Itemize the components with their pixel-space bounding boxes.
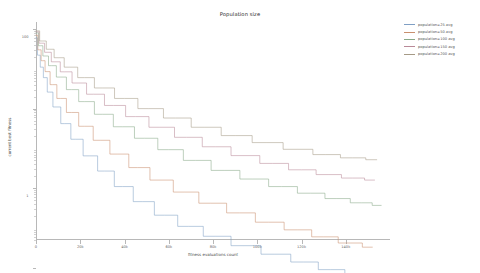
series-line-0: [36, 38, 379, 273]
legend-color-swatch: [404, 39, 415, 40]
legend-item[interactable]: population=150 avg: [404, 43, 478, 50]
legend-item[interactable]: population=200 avg: [404, 51, 478, 58]
legend-item-label: population=100 avg: [418, 37, 455, 41]
x-tick: [213, 240, 214, 244]
y-tick: 100u: [33, 268, 37, 269]
x-tick: [80, 240, 81, 244]
series-line-1: [36, 35, 372, 247]
legend-item[interactable]: population=50 avg: [404, 28, 478, 35]
plot-area: 10010.01100u1u 020k40k60k80k100k120k140k: [36, 22, 390, 240]
chart-legend: population=25 avgpopulation=50 avgpopula…: [404, 21, 478, 58]
y-tick-label: 100: [22, 35, 29, 39]
x-tick: [257, 240, 258, 244]
x-tick: [302, 240, 303, 244]
series-line-4: [36, 31, 377, 160]
legend-item[interactable]: population=25 avg: [404, 21, 478, 28]
series-lines: [36, 22, 390, 240]
chart-title: Population size: [0, 11, 480, 17]
x-tick-label: 120k: [297, 245, 306, 249]
chart-figure: Population size current best fitness 100…: [0, 0, 480, 273]
y-axis-label: current best fitness: [7, 117, 12, 156]
x-tick: [169, 240, 170, 244]
legend-color-swatch: [404, 32, 415, 33]
legend-item[interactable]: population=100 avg: [404, 36, 478, 43]
x-tick: [125, 240, 126, 244]
x-tick-label: 80k: [210, 245, 217, 249]
legend-color-swatch: [404, 24, 415, 25]
x-tick-label: 40k: [121, 245, 128, 249]
legend-item-label: population=150 avg: [418, 45, 455, 49]
x-tick-label: 20k: [77, 245, 84, 249]
series-line-3: [36, 32, 375, 180]
legend-color-swatch: [404, 54, 415, 55]
legend-item-label: population=200 avg: [418, 52, 455, 56]
y-tick-label: 1: [26, 194, 28, 198]
legend-color-swatch: [404, 46, 415, 47]
legend-item-label: population=25 avg: [418, 23, 452, 27]
x-tick-label: 60k: [165, 245, 172, 249]
series-line-2: [36, 33, 381, 206]
x-tick: [36, 240, 37, 244]
legend-item-label: population=50 avg: [418, 30, 452, 34]
x-tick-label: 140k: [341, 245, 350, 249]
x-tick-label: 0: [35, 245, 37, 249]
x-axis-label: fitness evaluations count: [36, 252, 390, 257]
